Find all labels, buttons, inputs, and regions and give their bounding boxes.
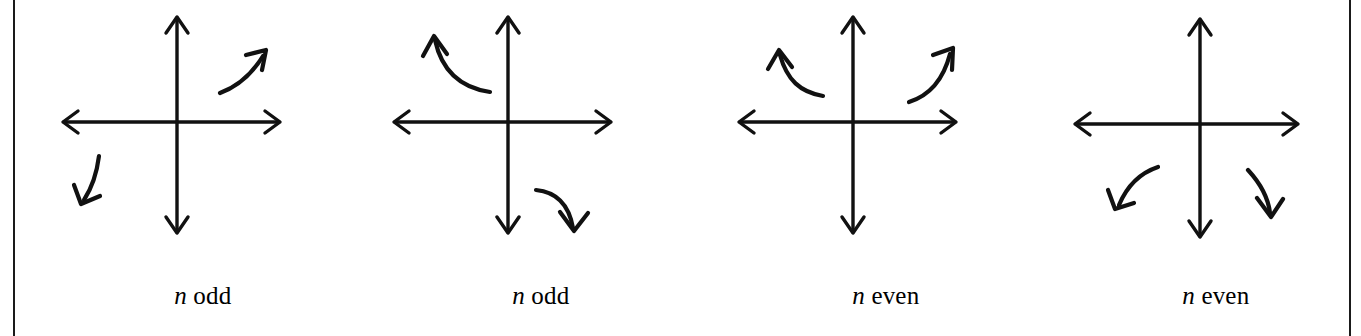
caption-variable-n: n — [1182, 282, 1195, 309]
panel-caption: n odd a > 0 — [7, 248, 347, 336]
panel-caption: n even a > 0 — [690, 248, 1030, 336]
caption-line-1: n odd — [7, 248, 347, 336]
caption-parity: even — [871, 282, 919, 309]
panel-n-even-a-negative: n even a < 0 — [1020, 0, 1360, 336]
upper-right-arrow — [220, 50, 266, 93]
lower-left-arrow — [1108, 167, 1158, 209]
cartesian-axes-icon — [345, 0, 685, 250]
caption-line-1: n even — [690, 248, 1030, 336]
caption-parity: even — [1201, 282, 1249, 309]
upper-left-arrow — [423, 36, 490, 92]
panel-caption: n even a < 0 — [1020, 248, 1360, 336]
caption-variable-n: n — [512, 282, 525, 309]
lower-right-arrow — [1248, 170, 1283, 217]
panel-n-even-a-positive: n even a > 0 — [690, 0, 1030, 336]
caption-parity: odd — [531, 282, 569, 309]
caption-variable-n: n — [174, 282, 187, 309]
caption-line-1: n odd — [345, 248, 685, 336]
lower-left-arrow — [74, 156, 100, 204]
lower-right-arrow — [536, 190, 588, 231]
cartesian-axes-icon — [7, 0, 347, 250]
panel-n-odd-a-positive: n odd a > 0 — [7, 0, 347, 336]
caption-line-1: n even — [1020, 248, 1360, 336]
panel-n-odd-a-negative: n odd a < 0 — [345, 0, 685, 336]
cartesian-axes-icon — [690, 0, 1030, 250]
figure-root: n odd a > 0 — [0, 0, 1361, 336]
panel-caption: n odd a < 0 — [345, 248, 685, 336]
cartesian-axes-icon — [1020, 0, 1360, 250]
caption-variable-n: n — [852, 282, 865, 309]
upper-right-arrow — [909, 48, 953, 102]
caption-parity: odd — [193, 282, 231, 309]
upper-left-arrow — [768, 50, 823, 96]
